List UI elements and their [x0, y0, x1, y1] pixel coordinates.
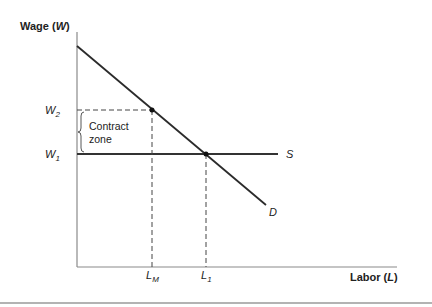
contract-zone-line1: Contract: [89, 120, 129, 132]
w1-label: W1: [45, 148, 60, 163]
equilibrium-point: [204, 152, 209, 157]
contract-zone-line2: zone: [89, 133, 112, 145]
contract-zone-brace: [78, 112, 84, 152]
l1-label: L1: [201, 269, 212, 284]
supply-label: S: [286, 148, 294, 160]
demand-label: D: [269, 206, 277, 218]
lm-label: LM: [146, 269, 159, 284]
x-axis-title: Labor (L): [350, 271, 398, 283]
labor-market-diagram: Wage (W) Labor (L) D S W2 W1 LM L1 Contr…: [0, 0, 432, 307]
monopoly-point: [150, 108, 155, 113]
w2-label: W2: [45, 104, 60, 119]
y-axis-title: Wage (W): [20, 20, 70, 32]
